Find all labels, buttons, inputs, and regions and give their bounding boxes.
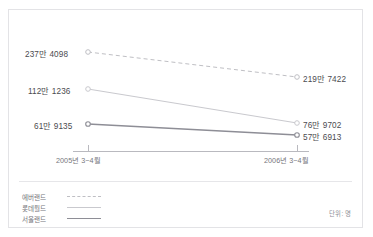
plot-area: 237만 4098 219만 7422 112만 1236 76만 9702 6…: [9, 10, 364, 170]
data-label-lotteworld-start: 112만 1236: [28, 84, 70, 96]
data-label-seoulland-start: 61만 9135: [34, 119, 72, 131]
x-axis-label-right: 2006년 3~4월: [264, 155, 309, 165]
title-strip: [0, 0, 373, 8]
legend-swatch-dark-line-icon: [67, 215, 101, 223]
chart-frame: 237만 4098 219만 7422 112만 1236 76만 9702 6…: [8, 9, 363, 228]
series-marker-everland-end: [295, 75, 300, 80]
unit-note: 단위: 명: [329, 209, 351, 218]
legend-label-everland: 에버랜드: [22, 192, 64, 202]
legend-swatch-dashed-icon: [67, 193, 101, 201]
legend-label-seoulland: 서울랜드: [22, 214, 64, 224]
data-label-lotteworld-end: 76만 9702: [303, 118, 341, 130]
legend-item-seoulland[interactable]: 서울랜드: [22, 213, 162, 224]
series-marker-everland-start: [86, 50, 91, 55]
chart-legend: 에버랜드 롯데월드 서울랜드: [22, 191, 162, 224]
legend-item-everland[interactable]: 에버랜드: [22, 191, 162, 202]
series-marker-seoulland-end: [295, 133, 300, 138]
data-label-everland-start: 237만 4098: [25, 47, 68, 59]
series-line-lotteworld: [88, 89, 297, 123]
series-line-everland: [88, 52, 297, 77]
data-label-seoulland-end: 57만 6913: [303, 130, 341, 142]
legend-separator: [19, 181, 352, 182]
data-label-everland-end: 219만 7422: [303, 72, 346, 84]
x-axis-label-left: 2005년 3~4월: [56, 155, 101, 165]
legend-swatch-light-line-icon: [67, 204, 101, 212]
legend-item-lotteworld[interactable]: 롯데월드: [22, 202, 162, 213]
series-marker-lotteworld-end: [295, 121, 300, 126]
series-marker-seoulland-start: [86, 122, 91, 127]
legend-label-lotteworld: 롯데월드: [22, 203, 64, 213]
series-line-seoulland: [88, 124, 297, 135]
series-marker-lotteworld-start: [86, 87, 91, 92]
